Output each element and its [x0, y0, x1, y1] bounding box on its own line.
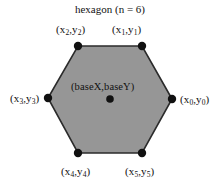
vertex-label-v3: (x3,y3) [10, 93, 39, 104]
center-label: (baseX,baseY) [71, 82, 134, 93]
vertex-dot-v3 [44, 94, 52, 102]
vertex-label-v2: (x2,y2) [56, 24, 85, 35]
vertex-dot-v2 [74, 42, 82, 50]
vertex-label-v5: (x5,y5) [125, 166, 154, 177]
vertex-dot-v0 [168, 95, 176, 103]
vertex-label-v4: (x4,y4) [61, 166, 90, 177]
hexagon-diagram: hexagon (n = 6) (x2,y2) (x1,y1) (x3,y3) … [0, 0, 220, 182]
vertex-label-v0: (x0,y0) [180, 94, 209, 105]
vertex-dot-v1 [138, 42, 146, 50]
vertex-label-v1: (x1,y1) [112, 24, 141, 35]
center-dot [106, 95, 114, 103]
vertex-dot-v4 [74, 149, 82, 157]
vertex-dot-v5 [138, 149, 146, 157]
